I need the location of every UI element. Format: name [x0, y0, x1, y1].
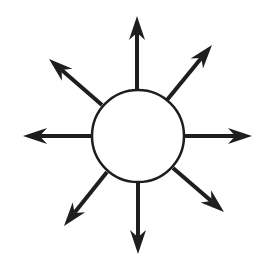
- arrow-east: [184, 128, 252, 144]
- arrow-south: [130, 182, 146, 254]
- arrow-south-west: [64, 172, 107, 226]
- arrow-north-east: [167, 45, 212, 100]
- arrow-shaft: [62, 70, 102, 105]
- arrow-shaft: [167, 58, 201, 100]
- arrow-west: [23, 128, 92, 144]
- arrow-north: [129, 16, 145, 90]
- radiating-arrows-diagram: [0, 0, 267, 276]
- arrow-north-west: [49, 59, 102, 105]
- arrow-south-east: [173, 168, 224, 212]
- arrow-shaft: [173, 168, 211, 201]
- diagram-canvas: [0, 0, 267, 276]
- center-circle: [92, 90, 184, 182]
- arrow-shaft: [74, 172, 107, 213]
